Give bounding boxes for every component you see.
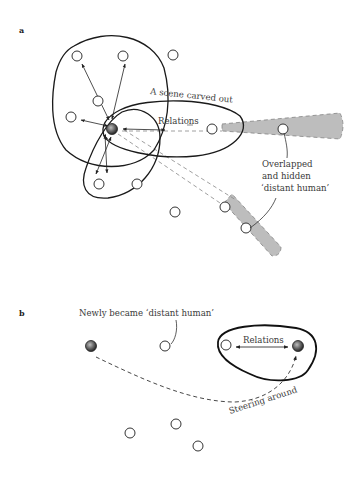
relations-label-a: Relations [158, 116, 199, 126]
humans-panel-b [125, 340, 231, 451]
sight-lines [118, 130, 236, 207]
human [168, 50, 178, 60]
human [125, 428, 135, 438]
robot-agent [107, 124, 118, 135]
hidden-label-3: ‘distant human’ [261, 183, 330, 193]
human [207, 124, 217, 134]
hidden-label-2: and hidden [262, 171, 311, 181]
humans-panel-a [66, 50, 288, 233]
hidden-label-1: Overlapped [262, 159, 313, 169]
relation-arrows [81, 64, 165, 174]
human [221, 340, 231, 350]
human [66, 112, 76, 122]
callout-line [171, 320, 177, 344]
human [72, 51, 82, 61]
robot-destination [293, 341, 304, 352]
hidden-human [278, 124, 288, 134]
human [93, 96, 103, 106]
relations-label-b: Relations [243, 335, 284, 345]
human [170, 207, 180, 217]
figure: a [0, 0, 354, 490]
human [193, 441, 203, 451]
panel-a-label: a [19, 25, 24, 35]
human [220, 202, 230, 212]
human [132, 179, 142, 189]
human [160, 341, 170, 351]
robot-start [86, 341, 97, 352]
newly-distant-label: Newly became ‘distant human’ [79, 308, 214, 318]
callout-line [284, 133, 287, 158]
relation-scene-outline [218, 325, 316, 380]
hidden-human [241, 223, 251, 233]
scene-outlines [53, 36, 244, 198]
panel-b-label: b [19, 308, 25, 318]
occlusion-beam-lower [224, 194, 281, 256]
human [118, 51, 128, 61]
steering-label: Steering around [228, 384, 299, 416]
human [171, 419, 181, 429]
human [94, 179, 104, 189]
